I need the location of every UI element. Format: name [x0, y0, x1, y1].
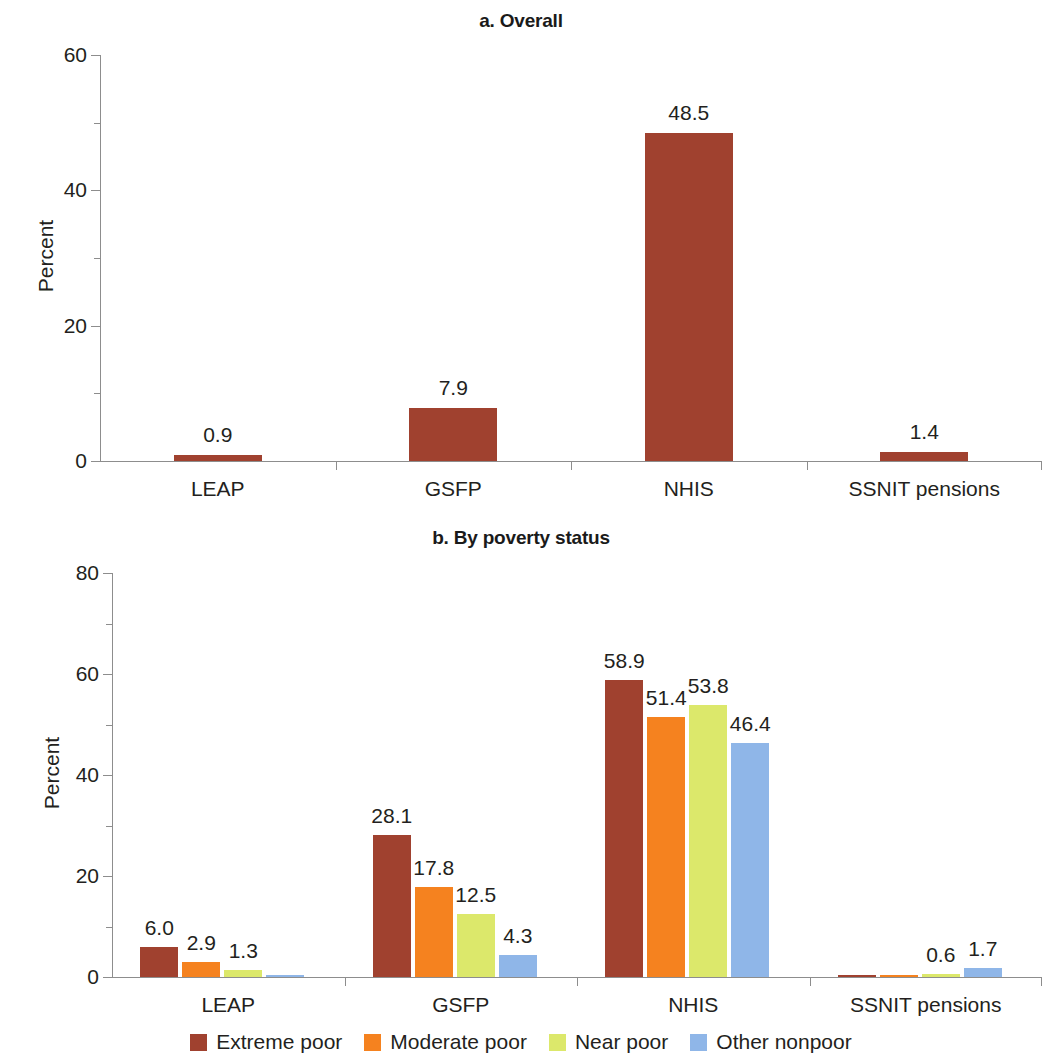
y-tick-minor [94, 393, 100, 394]
bar-nhis-moderate-poor [647, 717, 685, 977]
x-category-label-ssnit-pensions: SSNIT pensions [849, 477, 1000, 501]
bar-value-label: 2.9 [187, 931, 216, 955]
panel-a-title: a. Overall [0, 10, 1042, 32]
chart-legend: Extreme poorModerate poorNear poorOther … [0, 1030, 1042, 1054]
bar-leap-moderate-poor [182, 962, 220, 977]
bar-leap [174, 455, 262, 461]
legend-label: Near poor [575, 1030, 668, 1054]
bar-value-label: 58.9 [604, 649, 645, 673]
legend-item-near-poor: Near poor [549, 1030, 668, 1054]
x-axis-tick [345, 977, 346, 986]
y-tick-label: 40 [64, 178, 87, 202]
legend-swatch-icon [690, 1034, 707, 1051]
x-axis-tick [807, 461, 808, 470]
bar-value-label: 0.9 [203, 423, 232, 447]
bar-nhis [645, 133, 733, 461]
bar-ssnit-pensions-moderate-poor [880, 975, 918, 977]
bar-leap-near-poor [224, 970, 262, 977]
x-axis-tick [336, 461, 337, 470]
y-tick-label: 40 [76, 763, 99, 787]
y-tick-label: 60 [76, 662, 99, 686]
bar-nhis-extreme-poor [605, 680, 643, 977]
legend-label: Moderate poor [390, 1030, 527, 1054]
legend-label: Extreme poor [216, 1030, 342, 1054]
panel-b-y-axis-title: Percent [40, 713, 64, 833]
bar-value-label: 1.4 [910, 420, 939, 444]
bar-value-label: 6.0 [145, 916, 174, 940]
y-tick-label: 0 [75, 449, 87, 473]
legend-item-moderate-poor: Moderate poor [364, 1030, 527, 1054]
bar-ssnit-pensions [880, 452, 968, 461]
y-tick-label: 0 [87, 965, 99, 989]
x-category-label-leap: LEAP [201, 993, 255, 1017]
x-category-label-gsfp: GSFP [425, 477, 482, 501]
bar-gsfp [409, 408, 497, 461]
y-tick-20 [91, 326, 100, 327]
y-tick-40 [91, 190, 100, 191]
bar-leap-other-nonpoor [266, 975, 304, 977]
bar-value-label: 0.6 [926, 943, 955, 967]
bar-value-label: 51.4 [646, 686, 687, 710]
y-tick-minor [106, 725, 112, 726]
panel-b-plot-area: 020406080LEAPGSFPNHISSSNIT pensions6.02.… [112, 573, 1042, 977]
legend-item-extreme-poor: Extreme poor [190, 1030, 342, 1054]
x-category-label-nhis: NHIS [664, 477, 714, 501]
x-category-label-gsfp: GSFP [432, 993, 489, 1017]
bar-ssnit-pensions-near-poor [922, 974, 960, 977]
x-category-label-nhis: NHIS [668, 993, 718, 1017]
y-axis-line [112, 573, 113, 978]
bar-gsfp-other-nonpoor [499, 955, 537, 977]
y-tick-0 [91, 461, 100, 462]
bar-value-label: 48.5 [668, 101, 709, 125]
y-tick-minor [106, 624, 112, 625]
legend-label: Other nonpoor [716, 1030, 851, 1054]
y-tick-label: 20 [76, 864, 99, 888]
bar-value-label: 7.9 [439, 376, 468, 400]
bar-value-label: 1.7 [968, 937, 997, 961]
legend-swatch-icon [364, 1034, 381, 1051]
panel-a-plot-area: 0204060LEAPGSFPNHISSSNIT pensions0.97.94… [100, 55, 1042, 461]
bar-ssnit-pensions-other-nonpoor [964, 968, 1002, 977]
bar-nhis-near-poor [689, 705, 727, 977]
bar-gsfp-near-poor [457, 914, 495, 977]
y-tick-label: 80 [76, 561, 99, 585]
y-tick-label: 60 [64, 43, 87, 67]
bar-gsfp-moderate-poor [415, 887, 453, 977]
y-tick-minor [106, 826, 112, 827]
bar-value-label: 46.4 [730, 712, 771, 736]
panel-b-title: b. By poverty status [0, 527, 1042, 549]
y-tick-minor [94, 258, 100, 259]
x-axis-tick [810, 977, 811, 986]
legend-swatch-icon [190, 1034, 207, 1051]
bar-gsfp-extreme-poor [373, 835, 411, 977]
y-axis-line [100, 55, 101, 462]
bar-value-label: 17.8 [413, 856, 454, 880]
x-category-label-ssnit-pensions: SSNIT pensions [850, 993, 1001, 1017]
y-tick-minor [94, 123, 100, 124]
y-tick-minor [106, 927, 112, 928]
bar-value-label: 28.1 [371, 804, 412, 828]
bar-value-label: 4.3 [503, 924, 532, 948]
legend-swatch-icon [549, 1034, 566, 1051]
x-axis-tick [571, 461, 572, 470]
y-tick-80 [103, 573, 112, 574]
bar-value-label: 53.8 [688, 674, 729, 698]
y-tick-label: 20 [64, 314, 87, 338]
y-tick-40 [103, 775, 112, 776]
bar-leap-extreme-poor [140, 947, 178, 977]
x-axis-tick [577, 977, 578, 986]
x-category-label-leap: LEAP [191, 477, 245, 501]
y-tick-20 [103, 876, 112, 877]
bar-ssnit-pensions-extreme-poor [838, 975, 876, 977]
bar-value-label: 12.5 [455, 883, 496, 907]
panel-a-y-axis-title: Percent [34, 196, 58, 316]
legend-item-other-nonpoor: Other nonpoor [690, 1030, 851, 1054]
bar-value-label: 1.3 [229, 939, 258, 963]
figure-two-panel-bar-chart: a. Overall Percent 0204060LEAPGSFPNHISSS… [0, 0, 1042, 1064]
y-tick-60 [103, 674, 112, 675]
bar-nhis-other-nonpoor [731, 743, 769, 977]
y-tick-60 [91, 55, 100, 56]
y-tick-0 [103, 977, 112, 978]
